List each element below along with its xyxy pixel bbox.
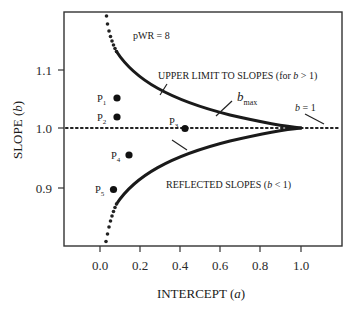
b-equals-1-leader [305,114,324,124]
x-tick-label: 0.0 [92,258,108,273]
x-tick-label: 0.8 [252,258,268,273]
y-tick-label: 1.1 [36,63,52,78]
reflected-slopes-curve [117,128,302,204]
reflected-slopes-label: REFLECTED SLOPES (b < 1) [166,179,291,191]
x-tick-label: 0.4 [172,258,189,273]
x-tick-label: 0.2 [132,258,148,273]
bmax-label: bmax [237,89,257,107]
point-p5 [110,186,117,193]
upper-limit-label: UPPER LIMIT TO SLOPES (for b > 1) [158,70,317,82]
point-label-p4: P4 [111,150,121,164]
point-p1 [113,94,120,101]
point-label-p5: P5 [95,184,105,198]
pwr-label: pWR = 8 [133,30,170,41]
x-tick-label: 0.6 [212,258,229,273]
point-label-p1: P1 [97,93,107,107]
y-axis-title: SLOPE (b) [10,101,25,159]
x-tick-label: 1.0 [293,258,309,273]
y-tick-label: 1.0 [36,121,52,136]
y-tick-label: 0.9 [36,181,52,196]
point-p4 [125,151,132,158]
x-axis-ticks [100,246,301,252]
point-p3 [181,125,188,132]
point-p2 [113,113,120,120]
reflected-curve-dots [104,202,118,243]
y-axis-ticks [58,70,64,188]
point-label-p2: P2 [97,112,107,126]
upper-limit-curve [117,52,302,129]
upper-limit-curve-dots [105,14,119,53]
chart-canvas: 1.1 1.0 0.9 0.0 0.2 0.4 0.6 0.8 1.0 INTE… [0,0,354,311]
b-equals-1-label: b = 1 [295,102,316,113]
reflected-leader [172,140,187,150]
x-axis-title: INTERCEPT (a) [157,286,245,301]
